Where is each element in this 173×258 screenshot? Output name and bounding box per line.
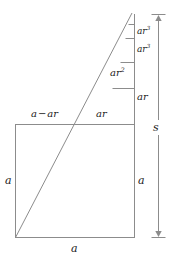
square-outline	[16, 125, 135, 238]
label-term-ar1: ar	[137, 92, 148, 102]
label-term-ar2: ar2	[110, 68, 125, 78]
label-side-left-a: a	[5, 175, 12, 186]
label-term-ar4: ar3	[137, 27, 150, 36]
label-side-right-a: a	[138, 175, 145, 186]
diagonal-line	[16, 13, 133, 238]
label-segment-ar: ar	[96, 109, 107, 119]
label-term-ar3: ar3	[137, 45, 150, 54]
measure-arrow-down	[155, 231, 161, 237]
figure-canvas	[0, 0, 173, 258]
label-bottom-a: a	[71, 243, 78, 254]
label-total-s: s	[151, 120, 161, 135]
measure-arrow-up	[155, 15, 161, 21]
label-segment-a-minus-ar: a−ar	[31, 109, 58, 119]
geometric-series-figure: ar3 ar3 ar2 ar a−ar ar a a a s	[0, 0, 173, 258]
